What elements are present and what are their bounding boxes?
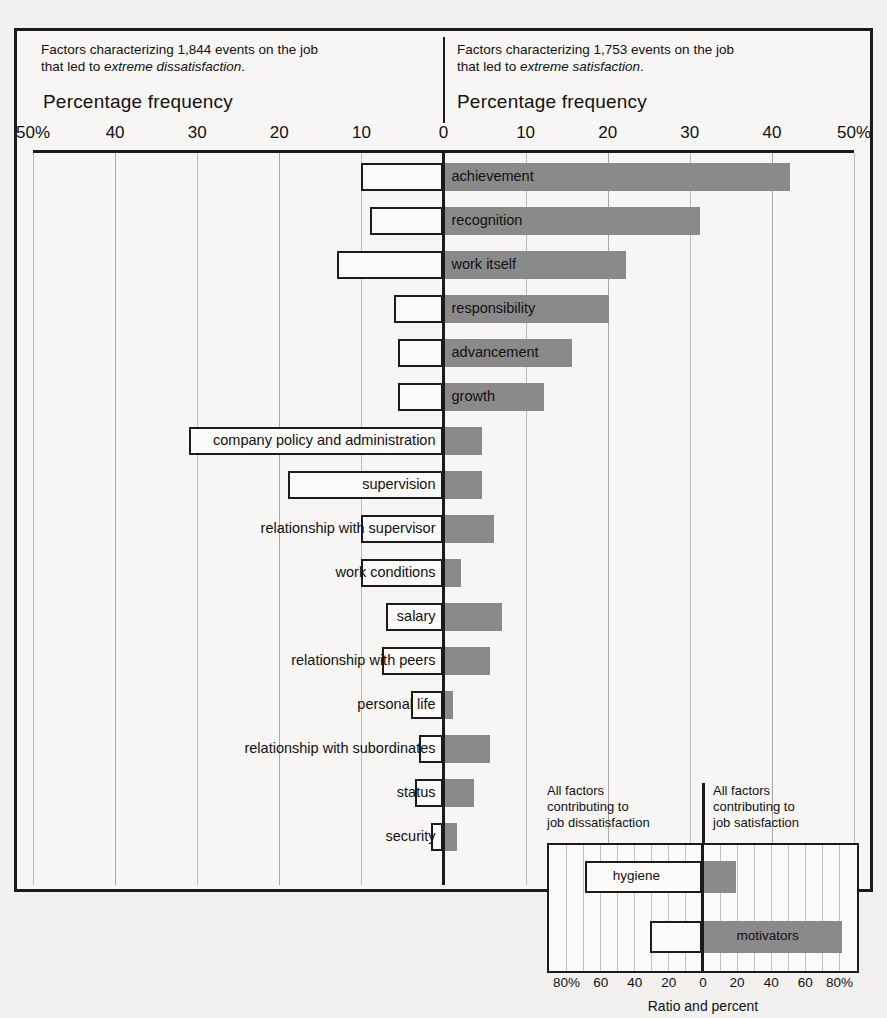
axis-tick-50pct-10: 50% <box>837 123 871 143</box>
left-header-line2-suffix: . <box>241 59 245 74</box>
inset-caption-right: All factorscontributing tojob satisfacti… <box>713 783 863 831</box>
inset-x-label: Ratio and percent <box>547 998 859 1014</box>
inset-caption-left-line2: contributing to <box>547 799 697 815</box>
satisfaction-bar[interactable] <box>445 691 453 719</box>
inset-caption-right-line3: job satisfaction <box>713 815 863 831</box>
bar-row: company policy and administration <box>33 419 854 463</box>
right-header-line2-prefix: that led to <box>457 59 520 74</box>
left-header: Factors characterizing 1,844 events on t… <box>41 41 421 75</box>
satisfaction-bar[interactable] <box>445 471 482 499</box>
left-header-line2-prefix: that led to <box>41 59 104 74</box>
inset-satisfaction-bar[interactable] <box>704 861 736 893</box>
inset-dissatisfaction-bar[interactable] <box>650 921 703 953</box>
inset-caption-left: All factorscontributing tojob dissatisfa… <box>547 783 697 831</box>
plot-area: achievementrecognitionwork itselfrespons… <box>33 150 854 885</box>
dissatisfaction-bar[interactable] <box>394 295 443 323</box>
category-label: recognition <box>447 207 528 235</box>
bar-row: advancement <box>33 331 854 375</box>
inset-tick-2: 40 <box>627 975 642 990</box>
satisfaction-bar[interactable] <box>445 647 490 675</box>
bar-row: relationship with subordinates <box>33 727 854 771</box>
right-axis-title: Percentage frequency <box>457 91 647 113</box>
category-label: responsibility <box>447 295 541 323</box>
axis-tick-30-2: 30 <box>188 123 207 143</box>
inset-bar-row: motivators <box>549 907 857 967</box>
inset-tick-6: 40 <box>764 975 779 990</box>
right-header: Factors characterizing 1,753 events on t… <box>457 41 837 75</box>
right-header-line1: Factors characterizing 1,753 events on t… <box>457 41 837 58</box>
dissatisfaction-bar[interactable] <box>398 339 443 367</box>
left-axis-title: Percentage frequency <box>43 91 233 113</box>
satisfaction-bar[interactable] <box>445 735 490 763</box>
category-label: growth <box>447 383 501 411</box>
bar-row: responsibility <box>33 287 854 331</box>
axis-tick-20-3: 20 <box>270 123 289 143</box>
category-label: supervision <box>357 471 440 499</box>
inset-tick-1: 60 <box>593 975 608 990</box>
inset-tick-7: 60 <box>798 975 813 990</box>
bar-row: growth <box>33 375 854 419</box>
bar-row: supervision <box>33 463 854 507</box>
gridline-50 <box>854 153 855 885</box>
axis-tick-0-5: 0 <box>439 123 448 143</box>
bar-row: achievement <box>33 155 854 199</box>
inset-tick-3: 20 <box>661 975 676 990</box>
axis-tick-50pct-0: 50% <box>16 123 50 143</box>
inset-tick-0: 80% <box>553 975 580 990</box>
category-label: advancement <box>447 339 544 367</box>
inset-bar-row: hygiene <box>549 847 857 907</box>
right-header-emphasis: extreme satisfaction <box>520 59 640 74</box>
satisfaction-bar[interactable] <box>445 427 482 455</box>
bar-row: recognition <box>33 199 854 243</box>
bar-row: personal life <box>33 683 854 727</box>
bar-row: relationship with supervisor <box>33 507 854 551</box>
header-divider <box>443 37 445 123</box>
axis-tick-40-9: 40 <box>762 123 781 143</box>
category-label: work itself <box>447 251 521 279</box>
axis-tick-40-1: 40 <box>106 123 125 143</box>
category-label: company policy and administration <box>208 427 440 455</box>
category-label: personal life <box>352 691 440 719</box>
chart-figure: Factors characterizing 1,844 events on t… <box>14 28 873 892</box>
category-label: relationship with peers <box>286 647 440 675</box>
axis-tick-10-4: 10 <box>352 123 371 143</box>
inset-caption-right-line1: All factors <box>713 783 863 799</box>
inset-caption-divider <box>702 783 705 843</box>
category-label: achievement <box>447 163 539 191</box>
left-header-emphasis: extreme dissatisfaction <box>104 59 241 74</box>
dissatisfaction-bar[interactable] <box>398 383 443 411</box>
left-header-line2: that led to extreme dissatisfaction. <box>41 58 421 75</box>
inset-tick-labels: 80%604020020406080% <box>547 975 859 995</box>
bar-row: work conditions <box>33 551 854 595</box>
axis-tick-20-7: 20 <box>598 123 617 143</box>
satisfaction-bar[interactable] <box>445 515 494 543</box>
dissatisfaction-bar[interactable] <box>361 163 443 191</box>
inset-category-label: motivators <box>731 921 805 953</box>
inset-chart: All factorscontributing tojob dissatisfa… <box>541 783 865 1018</box>
right-header-line2: that led to extreme satisfaction. <box>457 58 837 75</box>
inset-tick-5: 20 <box>730 975 745 990</box>
satisfaction-bar[interactable] <box>445 823 457 851</box>
axis-tick-labels: 50%4030201001020304050% <box>17 123 870 147</box>
satisfaction-bar[interactable] <box>445 779 474 807</box>
category-label: status <box>392 779 441 807</box>
bar-row: work itself <box>33 243 854 287</box>
satisfaction-bar[interactable] <box>445 603 502 631</box>
category-label: security <box>381 823 441 851</box>
satisfaction-bar[interactable] <box>445 559 461 587</box>
inset-category-label: hygiene <box>607 861 666 893</box>
right-header-line2-suffix: . <box>640 59 644 74</box>
inset-tick-8: 80% <box>826 975 853 990</box>
axis-tick-10-6: 10 <box>516 123 535 143</box>
axis-tick-30-8: 30 <box>680 123 699 143</box>
inset-plot-area: hygienemotivators <box>547 843 859 973</box>
category-label: relationship with supervisor <box>256 515 441 543</box>
inset-tick-4: 0 <box>699 975 707 990</box>
category-label: relationship with subordinates <box>239 735 440 763</box>
category-label: work conditions <box>331 559 441 587</box>
inset-caption-right-line2: contributing to <box>713 799 863 815</box>
inset-caption-left-line1: All factors <box>547 783 697 799</box>
inset-caption-left-line3: job dissatisfaction <box>547 815 697 831</box>
dissatisfaction-bar[interactable] <box>337 251 444 279</box>
dissatisfaction-bar[interactable] <box>370 207 444 235</box>
